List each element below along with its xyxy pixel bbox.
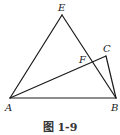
segment-AC [10, 56, 106, 98]
point-label-B: B [110, 102, 118, 113]
geometry-figure: EABCF [0, 0, 120, 135]
figure-segments [10, 15, 116, 98]
segment-AE [10, 15, 62, 98]
segment-CB [106, 56, 116, 98]
point-label-F: F [78, 54, 87, 65]
figure-caption: 图 1-9 [0, 118, 120, 134]
point-label-A: A [4, 102, 12, 113]
point-label-C: C [103, 43, 111, 54]
segment-EB [62, 15, 116, 98]
point-label-E: E [57, 2, 66, 13]
